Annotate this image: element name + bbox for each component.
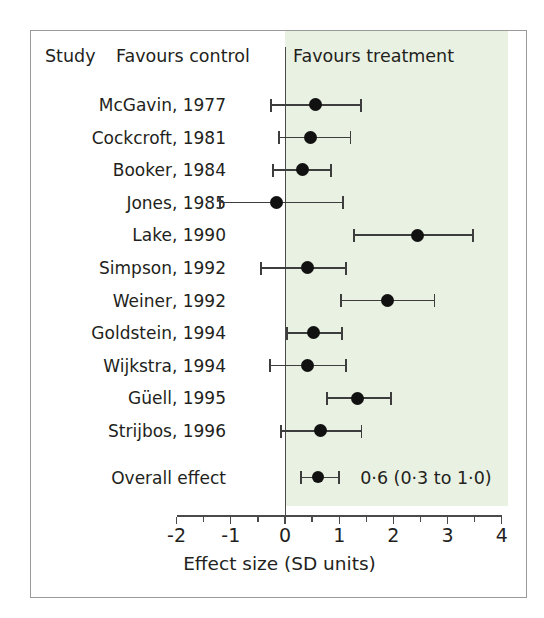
confidence-interval-cap-lower <box>300 471 302 484</box>
study-row: Weiner, 1992 <box>31 289 528 313</box>
confidence-interval-cap-upper <box>472 229 474 242</box>
overall-effect-row: Overall effect0·6 (0·3 to 1·0) <box>31 466 528 490</box>
study-row: Simpson, 1992 <box>31 256 528 280</box>
effect-size-marker <box>411 229 424 242</box>
study-label-7: Goldstein, 1994 <box>31 321 226 345</box>
forest-plot-figure: Study Favours control Favours treatment … <box>30 30 527 598</box>
x-tick-label: 0 <box>279 524 291 546</box>
confidence-interval-cap-lower <box>286 327 288 340</box>
confidence-interval-cap-upper <box>360 99 362 112</box>
effect-size-marker <box>307 326 320 339</box>
study-row: Strijbos, 1996 <box>31 419 528 443</box>
study-label-0: McGavin, 1977 <box>31 93 226 117</box>
x-tick-minor <box>203 517 204 522</box>
effect-size-marker <box>312 471 324 483</box>
x-tick-minor <box>366 517 367 522</box>
confidence-interval-cap-lower <box>353 229 355 242</box>
x-tick-major <box>176 517 177 524</box>
x-tick-minor <box>474 517 475 522</box>
study-label-10: Strijbos, 1996 <box>31 419 226 443</box>
study-row: Güell, 1995 <box>31 386 528 410</box>
overall-effect-value: 0·6 (0·3 to 1·0) <box>360 466 491 490</box>
effect-size-marker <box>270 196 283 209</box>
x-tick-major <box>284 517 285 524</box>
x-tick-minor <box>311 517 312 522</box>
study-row: Booker, 1984 <box>31 158 528 182</box>
x-axis: -2-101234 Effect size (SD units) <box>31 515 528 599</box>
study-label-6: Weiner, 1992 <box>31 289 226 313</box>
confidence-interval-cap-lower <box>260 262 262 275</box>
x-axis-label: Effect size (SD units) <box>31 553 528 574</box>
study-row: Lake, 1990 <box>31 223 528 247</box>
effect-size-marker <box>304 131 317 144</box>
confidence-interval-cap-lower <box>280 425 282 438</box>
confidence-interval-cap-lower <box>340 294 342 307</box>
study-label-8: Wijkstra, 1994 <box>31 354 226 378</box>
confidence-interval-cap-lower <box>270 99 272 112</box>
study-row: Cockcroft, 1981 <box>31 126 528 150</box>
effect-size-marker <box>351 392 364 405</box>
study-label-5: Simpson, 1992 <box>31 256 226 280</box>
effect-size-marker <box>301 261 314 274</box>
x-tick-label: 4 <box>496 524 508 546</box>
x-tick-major <box>447 517 448 524</box>
study-row: Wijkstra, 1994 <box>31 354 528 378</box>
x-tick-minor <box>257 517 258 522</box>
confidence-interval-cap-upper <box>341 327 343 340</box>
x-tick-label: 1 <box>333 524 345 546</box>
x-tick-label: -2 <box>167 524 186 546</box>
confidence-interval-cap-upper <box>338 471 340 484</box>
effect-size-marker <box>381 294 394 307</box>
x-tick-major <box>501 517 502 524</box>
overall-effect-label: Overall effect <box>31 466 226 490</box>
study-label-4: Lake, 1990 <box>31 223 226 247</box>
confidence-interval-cap-upper <box>350 131 352 144</box>
x-tick-major <box>230 517 231 524</box>
x-tick-label: 3 <box>442 524 454 546</box>
x-tick-label: 2 <box>387 524 399 546</box>
x-tick-minor <box>420 517 421 522</box>
x-tick-major <box>393 517 394 524</box>
confidence-interval-cap-lower <box>269 359 271 372</box>
confidence-interval-cap-lower <box>326 392 328 405</box>
confidence-interval-cap-lower <box>219 196 221 209</box>
confidence-interval-cap-upper <box>345 262 347 275</box>
study-row: Goldstein, 1994 <box>31 321 528 345</box>
confidence-interval-cap-lower <box>272 164 274 177</box>
study-row: McGavin, 1977 <box>31 93 528 117</box>
effect-size-marker <box>309 98 322 111</box>
x-tick-major <box>339 517 340 524</box>
confidence-interval-cap-lower <box>278 131 280 144</box>
confidence-interval-cap-upper <box>345 359 347 372</box>
confidence-interval-cap-upper <box>361 425 363 438</box>
effect-size-marker <box>296 163 309 176</box>
x-tick-label: -1 <box>221 524 240 546</box>
study-label-9: Güell, 1995 <box>31 386 226 410</box>
study-label-2: Booker, 1984 <box>31 158 226 182</box>
confidence-interval-cap-upper <box>390 392 392 405</box>
study-row: Jones, 1985 <box>31 191 528 215</box>
confidence-interval-cap-upper <box>330 164 332 177</box>
confidence-interval-cap-upper <box>434 294 436 307</box>
effect-size-marker <box>301 359 314 372</box>
study-rows: McGavin, 1977Cockcroft, 1981Booker, 1984… <box>31 31 528 551</box>
confidence-interval-cap-upper <box>342 196 344 209</box>
study-label-3: Jones, 1985 <box>31 191 226 215</box>
study-label-1: Cockcroft, 1981 <box>31 126 226 150</box>
effect-size-marker <box>314 424 327 437</box>
